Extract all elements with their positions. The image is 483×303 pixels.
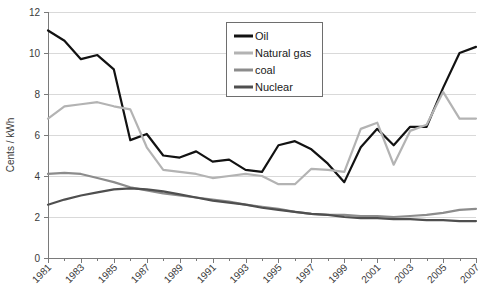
chart-legend: OilNatural gascoalNuclear [227, 23, 323, 97]
y-tick-label: 4 [34, 171, 40, 182]
x-tick-label: 1987 [129, 261, 153, 285]
x-tick-label: 1983 [63, 261, 87, 285]
x-tick-label: 2005 [425, 261, 449, 285]
line-chart: 024681012 198119831985198719891991199319… [0, 0, 483, 303]
y-axis-tick-labels: 024681012 [29, 7, 41, 264]
y-tick-label: 10 [29, 48, 41, 59]
x-tick-label: 1981 [30, 261, 54, 285]
x-tick-label: 2001 [359, 261, 383, 285]
y-tick-label: 2 [34, 212, 40, 223]
x-tick-label: 1997 [293, 261, 317, 285]
x-tick-label: 2003 [392, 261, 416, 285]
y-tick-label: 12 [29, 7, 41, 18]
chart-container: 024681012 198119831985198719891991199319… [0, 0, 483, 303]
legend-label-natural-gas: Natural gas [255, 47, 312, 59]
x-tick-label: 1989 [162, 261, 186, 285]
legend-label-oil: Oil [255, 30, 268, 42]
series-line-coal [48, 173, 476, 217]
y-tick-label: 0 [34, 253, 40, 264]
x-tick-label: 1985 [96, 261, 120, 285]
x-tick-label: 1991 [195, 261, 219, 285]
legend-label-coal: coal [255, 64, 275, 76]
y-tick-label: 6 [34, 130, 40, 141]
x-tick-label: 2007 [458, 261, 482, 285]
y-tick-label: 8 [34, 89, 40, 100]
x-tick-label: 1995 [260, 261, 284, 285]
legend-label-nuclear: Nuclear [255, 81, 293, 93]
x-tick-label: 1999 [326, 261, 350, 285]
y-axis-title: Cents / kWh [5, 118, 16, 172]
x-tick-label: 1993 [227, 261, 251, 285]
x-axis-tick-labels: 1981198319851987198919911993199519971999… [30, 261, 482, 285]
